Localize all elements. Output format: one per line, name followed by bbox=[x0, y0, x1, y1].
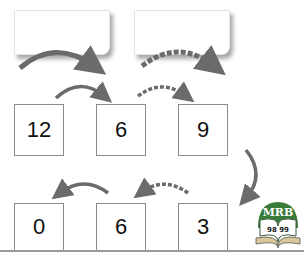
number-box-row2-1: 0 bbox=[14, 203, 64, 251]
arrow-3-to-6-icon bbox=[142, 184, 188, 193]
logo-top-text: MRB bbox=[263, 206, 294, 219]
logo-bottom-text: 98 99 bbox=[267, 226, 289, 234]
number-value: 12 bbox=[27, 117, 51, 143]
number-value: 0 bbox=[33, 214, 45, 240]
mrb-logo: MRB 98 99 bbox=[252, 198, 304, 250]
arrow-6-to-0-icon bbox=[60, 184, 108, 193]
number-box-row1-3: 9 bbox=[178, 104, 228, 156]
arrow-12-to-6-icon bbox=[56, 86, 104, 98]
number-value: 3 bbox=[197, 214, 209, 240]
legend-dashed-arrow-icon bbox=[142, 52, 214, 66]
number-box-row1-2: 6 bbox=[96, 104, 146, 156]
baseline-divider bbox=[0, 250, 304, 252]
number-box-row2-2: 6 bbox=[96, 203, 146, 251]
arrow-6-to-9-icon bbox=[138, 87, 186, 96]
arrow-9-to-3-icon bbox=[246, 150, 256, 198]
book-logo-icon: MRB 98 99 bbox=[252, 198, 304, 250]
legend-solid-arrow-icon bbox=[20, 52, 94, 68]
number-box-row1-1: 12 bbox=[14, 104, 64, 156]
number-value: 6 bbox=[115, 117, 127, 143]
number-box-row2-3: 3 bbox=[178, 203, 228, 251]
number-value: 9 bbox=[197, 117, 209, 143]
number-value: 6 bbox=[115, 214, 127, 240]
